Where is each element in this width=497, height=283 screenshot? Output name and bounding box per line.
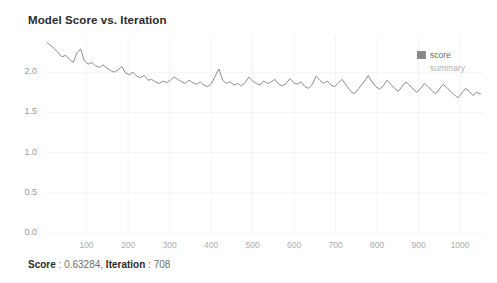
x-axis-tick: 500 (245, 240, 259, 250)
x-axis-tick: 600 (287, 240, 301, 250)
chart-legend: score summary (417, 48, 493, 74)
y-axis-tick: 1.0 (13, 147, 37, 157)
legend-item-label: summary (430, 63, 465, 73)
x-axis-tick: 900 (411, 240, 425, 250)
iteration-separator: : (145, 259, 153, 270)
x-axis-tick: 700 (328, 240, 342, 250)
chart-container: Model Score vs. Iteration 0.00.51.01.52.… (0, 0, 497, 283)
legend-item-score[interactable]: score (417, 48, 493, 61)
score-swatch-icon (417, 51, 426, 59)
page-title: Model Score vs. Iteration (28, 14, 167, 26)
score-value: 0.63284 (64, 259, 100, 270)
score-series-line (47, 42, 480, 97)
x-axis-tick: 300 (162, 240, 176, 250)
x-axis-tick: 200 (121, 240, 135, 250)
legend-item-label: score (430, 50, 451, 60)
x-axis-tick: 1000 (451, 240, 470, 250)
x-axis-tick: 800 (370, 240, 384, 250)
x-axis-tick: 100 (79, 240, 93, 250)
x-axis-tick: 400 (204, 240, 218, 250)
vertical-gridlines (87, 36, 461, 233)
y-axis-tick: 2.0 (13, 66, 37, 76)
score-label: Score (28, 259, 56, 270)
legend-item-summary[interactable]: summary (417, 61, 493, 74)
iteration-label: Iteration (106, 259, 145, 270)
iteration-value: 708 (154, 259, 171, 270)
status-footer: Score : 0.63284, Iteration : 708 (28, 259, 170, 270)
y-axis-tick: 0.0 (13, 227, 37, 237)
y-axis-tick: 0.5 (13, 187, 37, 197)
y-axis-tick: 1.5 (13, 106, 37, 116)
score-separator: : (56, 259, 64, 270)
